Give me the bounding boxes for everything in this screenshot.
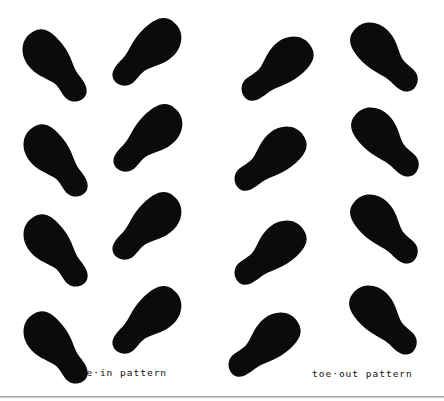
footprint-right-6 [103,184,191,272]
footprint-left-1 [230,27,321,110]
footprint-left-7 [217,303,308,386]
footprint-right-2 [103,10,191,98]
toe-out-pattern-label: toe·out pattern [312,368,413,379]
footprint-diagram [0,0,444,401]
toe-in-pattern-label: toe·in pattern [73,367,167,378]
footprint-left-5 [223,211,314,294]
toe-in-pattern-group [13,10,191,394]
footprint-right-6 [342,185,430,273]
footprint-left-5 [14,207,97,298]
footprint-left-1 [13,22,96,113]
toe-out-pattern-group [217,13,431,386]
footprint-right-4 [343,98,431,186]
footprint-right-4 [104,96,192,184]
bottom-divider [0,396,444,398]
footprint-right-2 [342,13,430,101]
footprint-left-3 [223,117,314,200]
footprint-left-3 [14,117,97,208]
footprint-left-7 [14,304,97,395]
footprint-right-8 [341,276,429,364]
footprint-right-8 [103,278,191,366]
